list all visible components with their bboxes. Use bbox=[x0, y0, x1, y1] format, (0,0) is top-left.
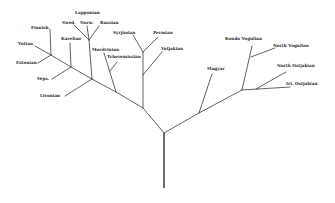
branch-tcheremissian bbox=[110, 62, 117, 71]
branch-syrjanian bbox=[133, 35, 143, 52]
label-lapponian: Lapponian bbox=[75, 10, 100, 15]
branch-veps bbox=[52, 67, 71, 79]
branch-north-vogulian bbox=[251, 48, 275, 57]
label-finnish: Finnish bbox=[31, 25, 49, 30]
branch-ostjak bbox=[242, 89, 258, 90]
label-konda-vogulian: Konda Vogulian bbox=[225, 36, 262, 41]
branch-finno-permic bbox=[143, 108, 164, 133]
branch-lapp bbox=[89, 40, 92, 79]
label-norw: Norw. bbox=[80, 20, 94, 25]
language-tree-diagram: Finnish Votian Estonian Karelian Veps. L… bbox=[0, 0, 335, 203]
branch-finno-volgaic bbox=[116, 92, 143, 108]
label-karelian: Karelian bbox=[61, 36, 81, 41]
branch-votian bbox=[35, 46, 51, 55]
branch-ugric bbox=[164, 113, 199, 133]
label-syrjanian: Syrjänian bbox=[113, 30, 135, 35]
branch-karelian bbox=[70, 43, 71, 67]
branch-russian bbox=[89, 26, 99, 40]
label-mordvinian: Mordvinian bbox=[92, 47, 119, 52]
branch-finnish-group bbox=[51, 55, 71, 67]
label-irt-ostjakian: Irt. Ostjakian bbox=[286, 81, 317, 86]
label-veps: Veps. bbox=[36, 76, 50, 81]
branch-konda-vogulian bbox=[242, 46, 252, 90]
branch-finnish bbox=[50, 29, 51, 55]
label-estonian: Estonian bbox=[16, 60, 37, 65]
label-livonian: Livonian bbox=[40, 93, 60, 98]
label-permian: Permian bbox=[153, 30, 173, 35]
label-swed: Swed. bbox=[62, 20, 76, 25]
label-tcheremissian: Tcheremissian bbox=[107, 54, 141, 59]
label-votian: Votian bbox=[17, 41, 33, 46]
branch-north-ostjakian bbox=[256, 72, 286, 89]
branch-permian bbox=[143, 37, 158, 52]
branch-estonian bbox=[38, 55, 51, 63]
label-russian: Russian bbox=[100, 20, 119, 25]
branch-livonian bbox=[65, 79, 92, 96]
label-votjakian: Votjakian bbox=[160, 46, 183, 51]
branch-irt-ostjakian bbox=[258, 87, 290, 89]
branch-votjakian bbox=[143, 52, 162, 75]
branch-baltic-finnic bbox=[71, 67, 92, 79]
label-magyar: Magyar bbox=[207, 66, 225, 71]
label-north-ostjakian: North Ostjakian bbox=[277, 63, 315, 68]
label-north-vogulian: North Vogulian bbox=[273, 43, 309, 48]
